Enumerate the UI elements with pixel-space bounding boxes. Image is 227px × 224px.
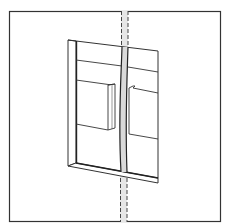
- pipe-concealed-bottom: [120, 172, 127, 222]
- vertical-pipe: [120, 47, 128, 172]
- left-block: [108, 84, 115, 130]
- opening-left-reveal: [68, 40, 76, 166]
- wall-opening-diagram: [0, 0, 227, 224]
- pipe-concealed-top: [121, 11, 128, 47]
- diagram-canvas: [0, 0, 227, 224]
